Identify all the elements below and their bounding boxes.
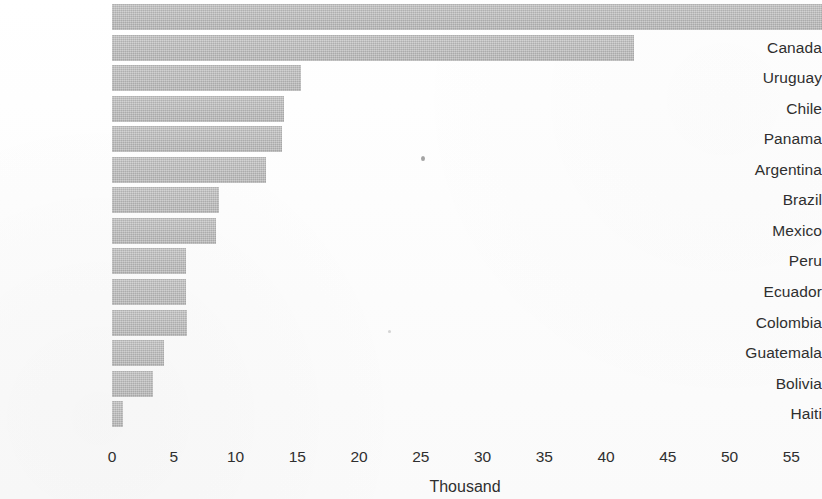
bar (112, 187, 219, 213)
x-tick-label: 40 (576, 449, 636, 465)
bar (112, 96, 284, 122)
bar (112, 126, 282, 152)
bar (112, 35, 634, 61)
bar (112, 310, 187, 336)
bar (112, 371, 153, 397)
x-tick-label: 30 (453, 449, 513, 465)
x-tick-label: 10 (206, 449, 266, 465)
x-tick-label: 20 (329, 449, 389, 465)
bar (112, 279, 186, 305)
bar (112, 248, 186, 274)
category-label: Chile (716, 101, 822, 117)
category-label: Panama (716, 131, 822, 147)
category-label: Bolivia (716, 376, 822, 392)
plot-area: United StatesCanadaUruguayChilePanamaArg… (0, 0, 822, 499)
bar-chart-figure: United StatesCanadaUruguayChilePanamaArg… (0, 0, 822, 499)
category-label: Mexico (716, 223, 822, 239)
x-tick-label: 45 (638, 449, 698, 465)
bar (112, 4, 822, 30)
x-tick-label: 5 (144, 449, 204, 465)
category-label: Brazil (716, 192, 822, 208)
category-label: Colombia (716, 315, 822, 331)
x-axis-title: Thousand (385, 479, 545, 495)
bar (112, 157, 266, 183)
category-label: Ecuador (716, 284, 822, 300)
category-label: Peru (716, 253, 822, 269)
category-label: Guatemala (716, 345, 822, 361)
bar (112, 401, 123, 427)
x-tick-label: 35 (514, 449, 574, 465)
category-label: Uruguay (716, 70, 822, 86)
bar (112, 65, 301, 91)
bar (112, 340, 164, 366)
bar (112, 218, 216, 244)
x-tick-label: 25 (391, 449, 451, 465)
category-label: Canada (716, 40, 822, 56)
x-tick-label: 55 (761, 449, 821, 465)
category-label: Argentina (716, 162, 822, 178)
x-tick-label: 15 (267, 449, 327, 465)
category-label: Haiti (716, 406, 822, 422)
x-tick-label: 0 (82, 449, 142, 465)
x-tick-label: 50 (700, 449, 760, 465)
